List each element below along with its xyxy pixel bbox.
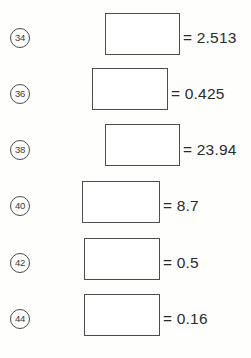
division-worksheet: 34251.3 ÷= 2.51336425 ÷= 0.42538239.4 ÷=… bbox=[0, 0, 251, 358]
item-number-circle: 36 bbox=[10, 84, 30, 104]
answer-box[interactable] bbox=[105, 124, 180, 166]
equals-result: = 2.513 bbox=[183, 29, 237, 47]
item-number-circle: 44 bbox=[10, 309, 30, 329]
answer-box[interactable] bbox=[84, 238, 160, 280]
problem-row: 4416 ÷= 0.16 bbox=[0, 291, 251, 347]
problem-row: 38239.4 ÷= 23.94 bbox=[0, 122, 251, 178]
equals-result: = 0.425 bbox=[171, 85, 225, 103]
problem-row: 4087 ÷= 8.7 bbox=[0, 178, 251, 234]
problem-row: 34251.3 ÷= 2.513 bbox=[0, 10, 251, 66]
equals-result: = 8.7 bbox=[163, 197, 199, 215]
equals-result: = 0.5 bbox=[163, 254, 199, 272]
equals-result: = 23.94 bbox=[183, 141, 237, 159]
answer-box[interactable] bbox=[82, 181, 160, 223]
answer-box[interactable] bbox=[105, 13, 180, 55]
equals-result: = 0.16 bbox=[163, 310, 208, 328]
problem-row: 4250 ÷= 0.5 bbox=[0, 235, 251, 291]
item-number-circle: 34 bbox=[10, 28, 30, 48]
answer-box[interactable] bbox=[92, 68, 168, 110]
item-number-circle: 42 bbox=[10, 253, 30, 273]
problem-row: 36425 ÷= 0.425 bbox=[0, 66, 251, 122]
answer-box[interactable] bbox=[84, 294, 160, 336]
item-number-circle: 38 bbox=[10, 140, 30, 160]
item-number-circle: 40 bbox=[10, 196, 30, 216]
